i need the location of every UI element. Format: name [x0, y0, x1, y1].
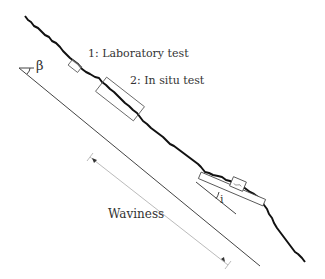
in-situ-test-label: 2: In situ test — [130, 74, 205, 87]
waviness-label: Waviness — [108, 207, 164, 221]
shear-plate — [198, 172, 265, 206]
mean-plane-line — [19, 68, 260, 266]
dimension-tick-end — [225, 261, 231, 269]
laboratory-test-sample — [68, 60, 82, 73]
joint-waviness-diagram: β Waviness 1: Laboratory test 2: In situ… — [0, 0, 325, 279]
beta-label: β — [36, 58, 44, 73]
laboratory-test-label: 1: Laboratory test — [88, 47, 189, 60]
roughness-angle-arc-icon — [216, 192, 219, 199]
roughness-angle-label: i — [220, 193, 224, 206]
beta-angle-arc-icon — [27, 68, 30, 74]
dimension-tick-start — [87, 153, 93, 161]
